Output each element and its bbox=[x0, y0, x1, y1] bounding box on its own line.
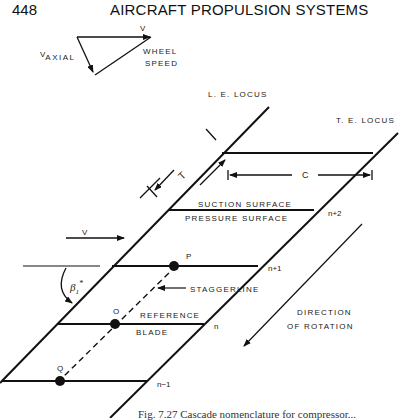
blade-index-n-minus-1: n−1 bbox=[157, 380, 171, 389]
point-q-label: Q bbox=[57, 364, 63, 373]
wheel-speed-label-2: SPEED bbox=[145, 59, 178, 68]
v-axial-label: VAXIAL bbox=[40, 50, 76, 59]
figure-caption: Fig. 7.27 Cascade nomenclature for compr… bbox=[138, 408, 356, 420]
blades bbox=[2, 153, 373, 381]
point-p bbox=[169, 261, 179, 271]
point-q bbox=[55, 376, 65, 386]
chord-dimension bbox=[228, 170, 372, 180]
angle-label: β1* bbox=[70, 279, 83, 296]
inlet-velocity-label: V bbox=[82, 228, 87, 237]
le-locus-line bbox=[0, 107, 269, 383]
point-p-label: P bbox=[186, 252, 191, 261]
staggerline-label: STAGGERLINE bbox=[190, 285, 260, 294]
spacing-dimension bbox=[140, 129, 225, 198]
reference-blade-label-1: REFERENCE bbox=[140, 311, 200, 320]
point-o bbox=[110, 319, 120, 329]
pressure-surface-label: PRESSURE SURFACE bbox=[185, 214, 288, 223]
angle-subscript: 1 bbox=[75, 288, 79, 296]
v-axial-sub: AXIAL bbox=[45, 53, 75, 62]
te-locus-label: T. E. LOCUS bbox=[336, 116, 395, 125]
blade-index-n: n bbox=[214, 322, 218, 331]
chord-label: C bbox=[302, 170, 309, 180]
angle-superscript: * bbox=[79, 279, 83, 288]
suction-surface-label: SUCTION SURFACE bbox=[198, 200, 292, 209]
blade-index-n-plus-1: n+1 bbox=[268, 264, 282, 273]
blade-index-n-plus-2: n+2 bbox=[328, 209, 342, 218]
direction-label-2: OF ROTATION bbox=[287, 322, 354, 331]
wheel-speed-label-1: WHEEL bbox=[143, 47, 177, 56]
point-o-label: O bbox=[113, 307, 119, 316]
reference-blade-label-2: BLADE bbox=[136, 328, 168, 337]
le-locus-label: L. E. LOCUS bbox=[208, 90, 267, 99]
te-locus-line bbox=[110, 133, 398, 418]
v-label: V bbox=[140, 24, 145, 33]
velocity-triangle bbox=[77, 37, 151, 75]
direction-label-1: DIRECTION bbox=[297, 308, 352, 317]
